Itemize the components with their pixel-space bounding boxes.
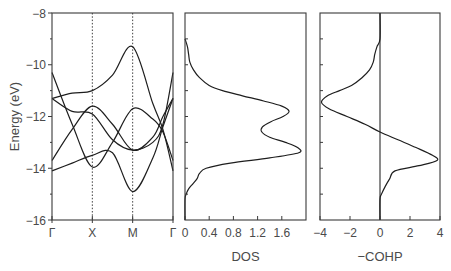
dos-panel: 00.40.81.21.6DOS (182, 13, 306, 264)
k-point-label: Γ (49, 226, 56, 240)
y-tick-label: −8 (32, 7, 46, 21)
cohp-axis-title: −COHP (357, 249, 402, 264)
dos-curve (185, 39, 301, 220)
k-point-label: M (128, 226, 138, 240)
x-tick-label: 4 (437, 226, 444, 240)
x-tick-label: 0 (377, 226, 384, 240)
y-tick-label: −16 (26, 214, 47, 228)
band-curve (52, 73, 173, 151)
band-frame (52, 13, 173, 220)
y-tick-label: −10 (26, 58, 47, 72)
dos-frame (185, 13, 306, 220)
dos-axis-title: DOS (231, 249, 260, 264)
chart-svg: −16−14−12−10−8ΓXMΓEnergy (eV) 00.40.81.2… (0, 0, 451, 271)
k-point-label: Γ (170, 226, 177, 240)
y-tick-label: −14 (26, 162, 47, 176)
x-tick-label: 0.4 (201, 226, 218, 240)
x-tick-label: −2 (343, 226, 357, 240)
x-tick-label: −4 (313, 226, 327, 240)
x-tick-label: 0 (182, 226, 189, 240)
band-curve (52, 98, 173, 191)
y-tick-label: −12 (26, 110, 47, 124)
band-structure-panel: −16−14−12−10−8ΓXMΓEnergy (eV) (7, 7, 177, 241)
energy-axis-title: Energy (eV) (7, 82, 22, 151)
x-tick-label: 1.2 (249, 226, 266, 240)
x-tick-label: 2 (407, 226, 414, 240)
cohp-panel: −4−2024−COHP (313, 13, 444, 264)
x-tick-label: 0.8 (225, 226, 242, 240)
x-tick-label: 1.6 (273, 226, 290, 240)
chart-figure: −16−14−12−10−8ΓXMΓEnergy (eV) 00.40.81.2… (0, 0, 451, 271)
k-point-label: X (88, 226, 96, 240)
